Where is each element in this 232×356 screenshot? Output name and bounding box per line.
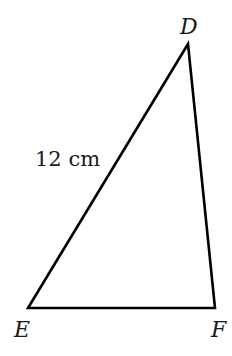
vertex-label-d: D — [179, 14, 198, 39]
triangle-diagram: D E F 12 cm — [0, 0, 232, 356]
vertex-label-f: F — [210, 317, 227, 342]
side-length-label-de: 12 cm — [35, 147, 100, 171]
vertex-label-e: E — [13, 317, 30, 342]
triangle-def — [28, 44, 215, 308]
